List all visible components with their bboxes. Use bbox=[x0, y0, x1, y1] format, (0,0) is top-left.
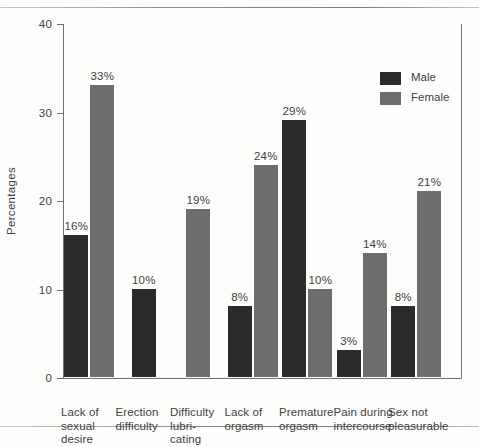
x-axis-category-label: Sex notpleasurable bbox=[388, 406, 449, 433]
y-axis-tick-label: 10 bbox=[39, 284, 52, 296]
y-axis-tick bbox=[57, 201, 63, 202]
category-label-line: Sex not bbox=[388, 406, 449, 420]
bar-value-label: 8% bbox=[395, 291, 412, 303]
bar: 24% bbox=[254, 165, 278, 377]
category-label-line: pleasurable bbox=[388, 420, 449, 434]
category-label-line: sexual bbox=[61, 420, 122, 434]
bar-value-label: 8% bbox=[231, 291, 248, 303]
legend-color-swatch bbox=[380, 72, 401, 85]
bar: 3% bbox=[337, 350, 361, 377]
y-axis-title: Percentages bbox=[5, 167, 17, 235]
bar-value-label: 16% bbox=[64, 220, 88, 232]
bar: 19% bbox=[186, 209, 210, 377]
y-axis-tick bbox=[57, 113, 63, 114]
x-axis-category-label: Lack oforgasm bbox=[225, 406, 286, 433]
x-axis-category-label: Prematureorgasm bbox=[279, 406, 340, 433]
bar: 10% bbox=[308, 289, 332, 378]
bar: 8% bbox=[391, 306, 415, 377]
legend-label: Male bbox=[411, 71, 436, 83]
y-axis-tick bbox=[57, 378, 63, 379]
bar-value-label: 19% bbox=[186, 194, 210, 206]
y-axis-tick-label: 40 bbox=[39, 18, 52, 30]
category-label-line: difficulty bbox=[116, 420, 177, 434]
y-axis-tick bbox=[57, 290, 63, 291]
bar: 33% bbox=[90, 85, 114, 377]
bar-value-label: 10% bbox=[132, 274, 156, 286]
bar: 29% bbox=[282, 120, 306, 377]
category-label-line: Premature bbox=[279, 406, 340, 420]
category-label-line: Lack of bbox=[225, 406, 286, 420]
category-label-line: Lack of bbox=[61, 406, 122, 420]
x-axis-category-label: Lack ofsexualdesire bbox=[61, 406, 122, 447]
bar-value-label: 33% bbox=[90, 70, 114, 82]
y-axis-tick-label: 0 bbox=[45, 372, 52, 384]
x-axis-category-label: Difficultylubri-cating bbox=[170, 406, 231, 447]
bar-value-label: 24% bbox=[254, 150, 278, 162]
y-axis-tick bbox=[57, 24, 63, 25]
category-label-line: orgasm bbox=[279, 420, 340, 434]
category-label-line: cating bbox=[170, 433, 231, 447]
category-label-line: intercourse bbox=[334, 420, 395, 434]
bar: 21% bbox=[417, 191, 441, 377]
bar-value-label: 10% bbox=[308, 274, 332, 286]
y-axis-tick-label: 20 bbox=[39, 195, 52, 207]
legend-color-swatch bbox=[380, 92, 401, 105]
bar: 16% bbox=[64, 235, 88, 377]
category-label-line: Pain during bbox=[334, 406, 395, 420]
bar-value-label: 3% bbox=[340, 335, 357, 347]
bar-value-label: 14% bbox=[363, 238, 387, 250]
bar: 8% bbox=[228, 306, 252, 377]
y-axis-tick-label: 30 bbox=[39, 107, 52, 119]
category-label-line: Erection bbox=[116, 406, 177, 420]
category-label-line: lubri- bbox=[170, 420, 231, 434]
bar: 14% bbox=[363, 253, 387, 377]
x-axis-category-label: Erectiondifficulty bbox=[116, 406, 177, 433]
bar-value-label: 21% bbox=[417, 176, 441, 188]
plot-right-border bbox=[461, 24, 462, 379]
category-label-line: desire bbox=[61, 433, 122, 447]
x-axis-category-label: Pain duringintercourse bbox=[334, 406, 395, 433]
bar: 10% bbox=[132, 289, 156, 378]
bar-chart-plot-area: Percentages 010203040 16%33%10%19%8%24%2… bbox=[63, 24, 462, 378]
bar-value-label: 29% bbox=[282, 105, 306, 117]
page-rule-top bbox=[0, 7, 479, 8]
category-label-line: Difficulty bbox=[170, 406, 231, 420]
legend-label: Female bbox=[411, 91, 449, 103]
x-axis-line bbox=[63, 378, 462, 379]
category-label-line: orgasm bbox=[225, 420, 286, 434]
